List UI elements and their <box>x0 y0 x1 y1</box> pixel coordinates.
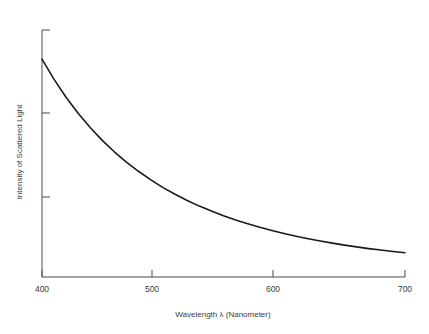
y-axis-title: Intensity of Scattered Light <box>15 104 24 200</box>
x-tick-label-400: 400 <box>35 284 49 294</box>
x-axis-title: Wavelength λ (Nanometer) <box>175 310 271 319</box>
chart-background <box>0 0 429 334</box>
x-tick-label-700: 700 <box>398 284 412 294</box>
x-tick-label-500: 500 <box>145 284 159 294</box>
chart-figure: 400 500 600 700 Wavelength λ (Nanometer)… <box>0 0 429 334</box>
rayleigh-scattering-chart: 400 500 600 700 Wavelength λ (Nanometer)… <box>0 0 429 334</box>
x-tick-label-600: 600 <box>266 284 280 294</box>
